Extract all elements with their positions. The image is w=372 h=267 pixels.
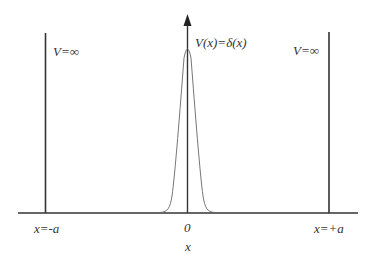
left-wall-label: x=-a <box>34 222 59 235</box>
left-potential-label: V=∞ <box>53 45 79 58</box>
delta-potential-label: V(x)=δ(x) <box>195 36 247 49</box>
origin-label: 0 <box>184 221 191 234</box>
right-potential-label: V=∞ <box>293 44 319 57</box>
delta-arrow-head-icon <box>184 14 192 26</box>
right-wall-label: x=+a <box>314 222 344 235</box>
x-axis-label: x <box>185 240 191 253</box>
